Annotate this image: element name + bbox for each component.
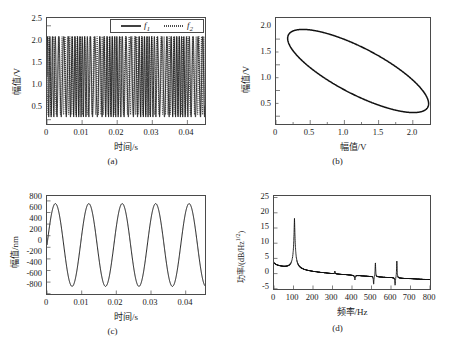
- legend-solid-line-icon: [121, 23, 141, 29]
- subplot-a: 幅值/V 2.5 2.0 1.5 1.0 0.5: [0, 0, 225, 175]
- subplot-d: 功率/(dB/Hz1/2) 25 20 15 10 5 0 -5: [225, 175, 450, 347]
- subplot-d-xtick-400: 400: [342, 293, 360, 302]
- subplot-d-plot-area: [273, 195, 431, 290]
- subplot-d-xtick-700: 700: [400, 293, 418, 302]
- legend-entry-f1: f1: [121, 20, 150, 32]
- subplot-c-plot-area: [46, 195, 206, 295]
- subplot-c-ytick-0: 0: [14, 236, 42, 245]
- subplot-d-ytick-5: 5: [245, 252, 269, 261]
- subplot-a-xtick-0_04: 0.04: [174, 128, 198, 137]
- subplot-c-ytick-400: 400: [14, 214, 42, 223]
- subplot-d-curve: [274, 196, 430, 289]
- subplot-a-ytick-2_0: 2.0: [18, 36, 42, 45]
- subplot-c-ytick-800: 800: [14, 192, 42, 201]
- subplot-c-sine-wave: [47, 204, 205, 287]
- subplot-c-ytick-neg400: -400: [12, 258, 42, 267]
- subplot-b-caption: (b): [225, 156, 450, 166]
- subplot-d-xlabel: 频率/Hz: [322, 305, 382, 318]
- subplot-d-xtick-0: 0: [264, 293, 282, 302]
- subplot-d-spectrum: [274, 218, 430, 285]
- subplot-a-xtick-0_03: 0.03: [139, 128, 163, 137]
- subplot-a-ytick-2_5: 2.5: [18, 14, 42, 23]
- subplot-c-ytick-600: 600: [14, 203, 42, 212]
- subplot-c-ytick-neg600: -600: [12, 269, 42, 278]
- subplot-a-curves: [47, 18, 205, 124]
- subplot-d-xtick-500: 500: [361, 293, 379, 302]
- legend-dotted-line-icon: [164, 23, 184, 29]
- subplot-b-curve: [276, 18, 430, 124]
- subplot-b-ytick-2_0: 2.0: [247, 21, 271, 30]
- subplot-c-ticks: [47, 201, 186, 294]
- subplot-a-caption: (a): [0, 156, 225, 166]
- subplot-b-xtick-2_0: 2.0: [400, 128, 424, 137]
- subplot-a-ytick-1_5: 1.5: [18, 58, 42, 67]
- subplot-c-ytick-neg800: -800: [12, 280, 42, 289]
- subplot-d-ytick-20: 20: [245, 207, 269, 216]
- subplot-d-ytick-0: 0: [245, 267, 269, 276]
- subplot-b-xlabel: 幅值/V: [323, 140, 383, 153]
- subplot-b-xtick-1_5: 1.5: [366, 128, 390, 137]
- subplot-d-ytick-15: 15: [245, 222, 269, 231]
- subplot-b-xtick-1_0: 1.0: [331, 128, 355, 137]
- subplot-c-xtick-0_02: 0.02: [103, 298, 127, 307]
- subplot-a-xtick-0_01: 0.01: [69, 128, 93, 137]
- subplot-c-ytick-neg200: -200: [12, 247, 42, 256]
- subplot-a-ytick-1_0: 1.0: [18, 80, 42, 89]
- subplot-b-ytick-1_5: 1.5: [247, 47, 271, 56]
- subplot-c-xtick-0: 0: [34, 298, 58, 307]
- subplot-c-caption: (c): [0, 326, 225, 336]
- subplot-a-plot-area: [46, 17, 206, 125]
- subplot-c-xtick-0_04: 0.04: [173, 298, 197, 307]
- subplot-d-ylabel-exponent: 1/2: [235, 234, 241, 242]
- subplot-b-lissajous-loop: [288, 29, 429, 112]
- subplot-c-curve: [47, 196, 205, 294]
- subplot-d-ytick-neg5: -5: [243, 282, 269, 291]
- subplot-d-ylabel-prefix: 功率/(dB/Hz: [237, 241, 246, 283]
- subplot-b: 幅值/V 2.0 1.5 1.0 0.5: [225, 0, 450, 175]
- subplot-c: 幅值/nm 800 600 400 200 0 -200 -400 -600 -…: [0, 175, 225, 347]
- subplot-d-xtick-200: 200: [303, 293, 321, 302]
- subplot-a-xtick-0: 0: [34, 128, 58, 137]
- subplot-b-ytick-0_5: 0.5: [247, 99, 271, 108]
- subplot-d-xtick-100: 100: [283, 293, 301, 302]
- subplot-a-xtick-0_02: 0.02: [104, 128, 128, 137]
- subplot-c-xtick-0_03: 0.03: [138, 298, 162, 307]
- subplot-b-plot-area: [275, 17, 431, 125]
- subplot-b-xtick-0_5: 0.5: [297, 128, 321, 137]
- legend-label-f1: f1: [144, 20, 150, 32]
- subplot-c-ytick-200: 200: [14, 225, 42, 234]
- legend-label-f2: f2: [187, 20, 193, 32]
- subplot-d-ytick-10: 10: [245, 237, 269, 246]
- subplot-a-legend: f1 f2: [110, 19, 204, 33]
- subplot-a-ytick-0_5: 0.5: [18, 102, 42, 111]
- subplot-c-xtick-0_01: 0.01: [69, 298, 93, 307]
- figure-four-subplots: 幅值/V 2.5 2.0 1.5 1.0 0.5: [0, 0, 450, 347]
- subplot-b-ytick-1_0: 1.0: [247, 73, 271, 82]
- subplot-c-xlabel: 时间/s: [96, 310, 156, 323]
- subplot-d-xtick-800: 800: [420, 293, 438, 302]
- subplot-d-ylabel-suffix: ): [237, 231, 246, 234]
- subplot-a-xlabel: 时间/s: [96, 140, 156, 153]
- subplot-d-ytick-25: 25: [245, 192, 269, 201]
- subplot-d-xtick-600: 600: [381, 293, 399, 302]
- subplot-b-xtick-0: 0: [263, 128, 287, 137]
- subplot-d-xtick-300: 300: [322, 293, 340, 302]
- legend-entry-f2: f2: [164, 20, 193, 32]
- subplot-b-ticks: [276, 39, 413, 124]
- subplot-d-caption: (d): [225, 323, 450, 333]
